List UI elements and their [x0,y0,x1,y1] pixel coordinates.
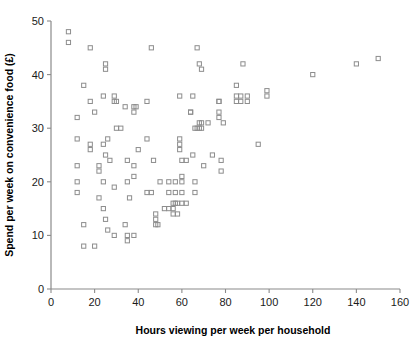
x-tick-label: 20 [89,296,101,308]
y-axis-title: Spend per week on convenience food (£) [3,53,15,257]
y-tick-label: 30 [32,122,44,134]
chart-background [0,0,417,347]
x-axis-title: Hours viewing per week per household [136,324,331,336]
y-tick-label: 0 [38,283,44,295]
y-tick-label: 50 [32,15,44,27]
chart-canvas: 01020304050 020406080100120140160 Hours … [0,0,417,347]
x-tick-label: 60 [176,296,188,308]
x-tick-label: 40 [132,296,144,308]
y-tick-label: 20 [32,176,44,188]
y-tick-label: 10 [32,229,44,241]
y-tick-label: 40 [32,69,44,81]
scatter-chart: 01020304050 020406080100120140160 Hours … [0,0,417,347]
x-tick-label: 120 [304,296,322,308]
x-tick-label: 160 [391,296,409,308]
x-tick-label: 0 [48,296,54,308]
x-tick-label: 100 [260,296,278,308]
x-tick-label: 140 [347,296,365,308]
x-tick-label: 80 [219,296,231,308]
